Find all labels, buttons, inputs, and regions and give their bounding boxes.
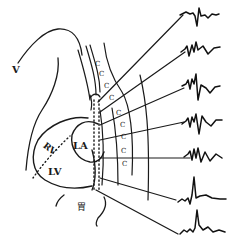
lead-line-2 (100, 52, 185, 112)
ecg-waveform-3 (182, 74, 220, 100)
lead-line-1 (98, 15, 183, 102)
spine-curve-6 (100, 110, 103, 185)
lead-line-6 (100, 178, 176, 200)
vertebra-mark: C (95, 60, 100, 68)
ecg-waveforms (178, 8, 226, 234)
ecg-waveform-2 (181, 42, 220, 56)
ecg-waveform-4 (182, 114, 222, 134)
diaphragm-curve-left (56, 195, 64, 206)
spine-curve-5 (140, 75, 149, 200)
vertebra-mark: C (121, 147, 126, 155)
lead-lines (96, 15, 190, 234)
ecg-waveform-7 (180, 210, 225, 234)
ecg-waveform-1 (180, 8, 219, 26)
vertebra-mark: C (122, 160, 127, 168)
label-v: V (11, 64, 20, 75)
lead-line-4 (100, 122, 184, 140)
label-la: LA (73, 140, 88, 151)
ecg-waveform-5 (184, 148, 222, 162)
vertebra-mark: C (109, 94, 114, 102)
heart-ventricle-outline (33, 117, 92, 188)
diaphragm-curve-right (96, 197, 105, 226)
spine-curve-1 (78, 50, 90, 100)
esophagus-top (90, 94, 100, 98)
ecg-waveform-6 (178, 177, 226, 204)
vertebra-mark: C (104, 82, 109, 90)
esophageal-ecg-diagram: C C C C C C C C C V RV LA LV 胃 (0, 0, 240, 246)
thorax-outline-top (18, 29, 82, 63)
label-rv: RV (41, 140, 59, 157)
vertebra-mark: C (99, 70, 104, 78)
label-lv: LV (48, 166, 62, 177)
vertebra-mark: C (120, 121, 125, 129)
label-stomach: 胃 (77, 202, 86, 212)
